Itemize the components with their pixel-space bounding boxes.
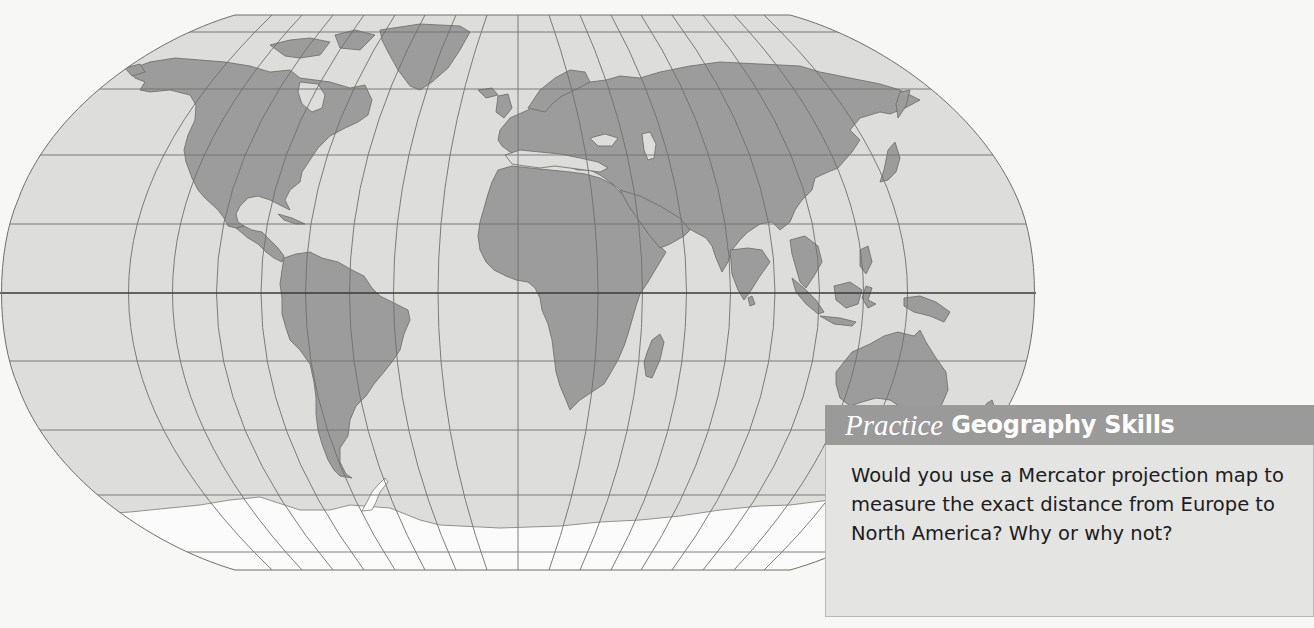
- practice-question: Would you use a Mercator projection map …: [825, 445, 1314, 617]
- practice-geography-skills-box: Practice Geography Skills Would you use …: [825, 405, 1314, 617]
- practice-label-italic: Practice: [845, 409, 943, 442]
- practice-label-bold: Geography Skills: [951, 411, 1174, 439]
- practice-header: Practice Geography Skills: [825, 405, 1314, 445]
